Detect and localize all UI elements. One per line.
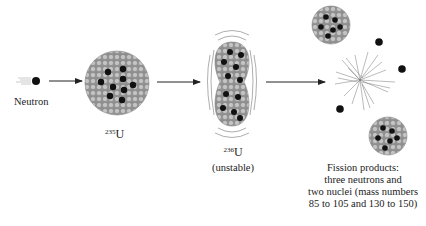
- u235-nucleus: [85, 51, 149, 115]
- u235-label: 235U: [105, 126, 124, 141]
- u235-mass-number: 235: [105, 128, 116, 136]
- emitted-neutron-2: [398, 65, 406, 73]
- fission-product-nucleus-2: [369, 117, 407, 155]
- fission-burst: [335, 52, 395, 110]
- fission-product-nucleus-1: [312, 6, 350, 44]
- fission-products-caption: Fission products: three neutrons and two…: [300, 162, 426, 210]
- caption-line-1: Fission products:: [300, 162, 426, 174]
- caption-line-2: three neutrons and: [300, 174, 426, 186]
- u236-symbol: U: [234, 145, 243, 159]
- emitted-neutron-3: [336, 105, 344, 113]
- u236-mass-number: 236: [223, 146, 234, 154]
- neutron-label: Neutron: [14, 96, 48, 108]
- emitted-neutron-1: [375, 38, 383, 46]
- u236-unstable-note: (unstable): [206, 162, 260, 174]
- u236-nucleus: [208, 31, 257, 138]
- incoming-neutron: [16, 77, 40, 85]
- caption-line-4: 85 to 105 and 130 to 150): [300, 198, 426, 210]
- caption-line-3: two nuclei (mass numbers: [300, 186, 426, 198]
- u235-symbol: U: [116, 127, 125, 141]
- u236-label: 236U (unstable): [206, 144, 260, 174]
